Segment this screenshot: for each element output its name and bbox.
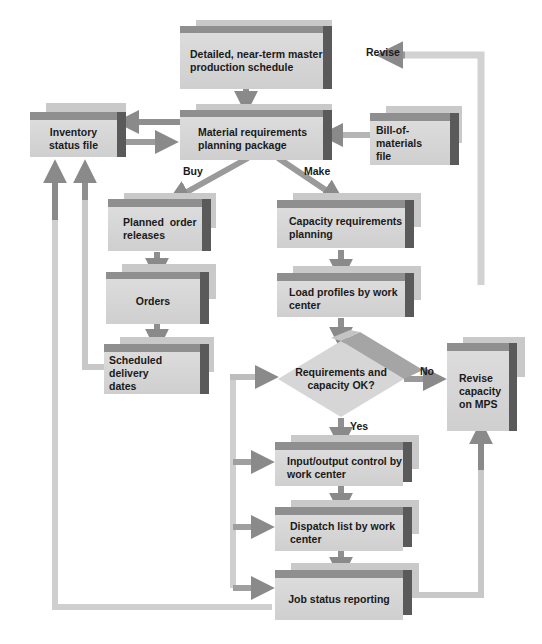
- make-arrow: [278, 158, 336, 197]
- node-orders-line1: Orders: [136, 295, 170, 308]
- node-mps-line1: Detailed, near-term master: [190, 48, 322, 61]
- revise-loop-connector: [402, 55, 481, 285]
- node-dispatch-line2: center: [290, 533, 322, 546]
- node-planned-orders-line1: Planned order: [123, 216, 197, 229]
- decision-text: Requirements and capacity OK?: [282, 366, 400, 392]
- node-load-profiles-line1: Load profiles by work: [289, 286, 398, 299]
- node-planned-orders-line2: releases: [123, 229, 165, 242]
- node-io-control-line1: Input/output control by: [287, 455, 402, 468]
- jobstatus-to-revise-connector: [410, 440, 481, 595]
- node-crp-line2: planning: [289, 228, 333, 241]
- node-crp-line1: Capacity requirements: [289, 215, 402, 228]
- node-mrp-line2: planning package: [198, 139, 287, 152]
- diagram-canvas: [0, 0, 542, 644]
- edge-label-no: No: [420, 365, 434, 377]
- decision-line2: capacity OK?: [282, 379, 400, 392]
- node-mps-line2: production schedule: [190, 61, 293, 74]
- buy-arrow: [176, 158, 248, 198]
- edge-label-buy: Buy: [183, 165, 203, 177]
- node-load-profiles-line2: center: [289, 299, 321, 312]
- node-inventory-line2: status file: [49, 139, 98, 152]
- node-io-control-line2: work center: [287, 468, 346, 481]
- node-job-status-line1: Job status reporting: [288, 593, 390, 606]
- node-bom-line1: Bill-of-materials: [376, 124, 450, 150]
- node-bom-line2: file: [376, 150, 391, 163]
- node-mrp-line1: Material requirements: [198, 126, 307, 139]
- node-revise-capacity-line1: Revise: [459, 372, 493, 385]
- node-dispatch-line1: Dispatch list by work: [290, 520, 395, 533]
- edge-label-yes: Yes: [350, 420, 368, 432]
- delivery-to-inventory-connector: [85, 176, 106, 367]
- node-revise-capacity-line3: on MPS: [459, 398, 498, 411]
- node-revise-capacity-line2: capacity: [459, 385, 501, 398]
- edge-label-revise: Revise: [366, 46, 400, 58]
- node-scheduled-delivery-line1: Scheduled delivery: [109, 354, 200, 380]
- node-scheduled-delivery-line2: dates: [109, 380, 136, 393]
- decision-line1: Requirements and: [282, 366, 400, 379]
- node-inventory-line1: Inventory: [50, 126, 97, 139]
- edge-label-make: Make: [304, 165, 330, 177]
